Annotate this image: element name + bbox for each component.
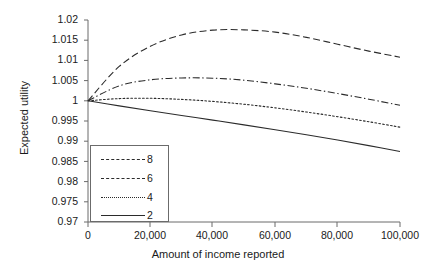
- legend-swatch-solid-icon: [101, 215, 145, 217]
- legend-item-2: 4: [91, 189, 170, 207]
- x-axis-title: Amount of income reported: [0, 248, 436, 260]
- y-tick-label-1: 1.015: [14, 34, 78, 45]
- series-line-6: [88, 78, 400, 105]
- series-line-4: [88, 98, 400, 127]
- legend-swatch-dashed-icon: [101, 159, 145, 161]
- chart-figure: 1.02 1.015 1.01 1.005 1 0.995 0.99 0.985…: [0, 0, 436, 275]
- series-line-8: [88, 30, 400, 101]
- y-tick-label-9: 0.975: [14, 196, 78, 207]
- legend-item-1: 6: [91, 170, 170, 188]
- x-tick-label-1: 20,000: [120, 230, 180, 241]
- data-curves: [88, 30, 400, 152]
- legend-label-3: 2: [147, 209, 153, 221]
- x-tick-label-2: 40,000: [182, 230, 242, 241]
- x-tick-label-4: 80,000: [307, 230, 367, 241]
- y-axis-title: Expected utility: [18, 48, 30, 188]
- legend-label-2: 4: [147, 191, 153, 203]
- legend-swatch-dotted-icon: [101, 197, 145, 199]
- legend-item-3: 2: [91, 207, 170, 225]
- y-tick-label-0: 1.02: [14, 14, 78, 25]
- y-tick-marks: [84, 20, 88, 222]
- y-tick-label-10: 0.97: [14, 216, 78, 227]
- x-tick-label-5: 100,000: [370, 230, 430, 241]
- legend-label-0: 8: [147, 153, 153, 165]
- x-tick-label-3: 60,000: [245, 230, 305, 241]
- legend-label-1: 6: [147, 172, 153, 184]
- series-line-2: [88, 101, 400, 152]
- legend-swatch-dashdot-icon: [101, 178, 145, 180]
- x-tick-label-0: 0: [58, 230, 118, 241]
- legend-item-0: 8: [91, 151, 170, 169]
- chart-legend: 8 6 4 2: [90, 145, 169, 222]
